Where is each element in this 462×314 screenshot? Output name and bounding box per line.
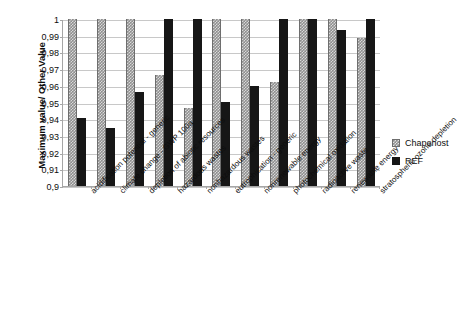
y-tick-label: 0,98	[41, 48, 59, 58]
y-tick-label: 0,95	[41, 99, 59, 109]
chart-legend: ChaponostREF	[392, 138, 449, 174]
y-tick-label: 0,9	[46, 182, 59, 192]
bar-ref[interactable]	[77, 118, 86, 186]
bar-groups	[63, 20, 380, 186]
bar-ref[interactable]	[366, 19, 375, 186]
bar-ref[interactable]	[308, 19, 317, 186]
y-tick-label: 0,91	[41, 165, 59, 175]
y-tick-label: 1	[54, 15, 59, 25]
y-tick-label: 0,96	[41, 82, 59, 92]
plot-area: 10,990,980,970,960,950,940,930,920,910,9	[62, 20, 380, 187]
legend-label: REF	[405, 156, 423, 166]
bar-chaponost[interactable]	[270, 82, 279, 186]
y-tick-label: 0,99	[41, 32, 59, 42]
x-axis-category-labels: acidification potential - genericclimate…	[62, 189, 380, 314]
bar-chaponost[interactable]	[97, 19, 106, 186]
legend-swatch-chaponost	[392, 139, 400, 147]
y-tick-label: 0,94	[41, 115, 59, 125]
y-tick-label: 0,92	[41, 149, 59, 159]
legend-label: Chaponost	[405, 138, 449, 148]
bar-ref[interactable]	[193, 19, 202, 186]
legend-swatch-ref	[392, 157, 400, 165]
bar-chart: Maximum value/ Other Value 10,990,980,97…	[0, 0, 462, 314]
legend-item[interactable]: REF	[392, 156, 449, 166]
bar-ref[interactable]	[279, 19, 288, 186]
y-tick-label: 0,97	[41, 65, 59, 75]
bar-ref[interactable]	[164, 19, 173, 186]
bar-ref[interactable]	[337, 30, 346, 186]
bar-chaponost[interactable]	[68, 19, 77, 186]
y-tick-label: 0,93	[41, 132, 59, 142]
y-tick-mark	[60, 187, 63, 188]
legend-item[interactable]: Chaponost	[392, 138, 449, 148]
bar-group	[63, 20, 92, 186]
